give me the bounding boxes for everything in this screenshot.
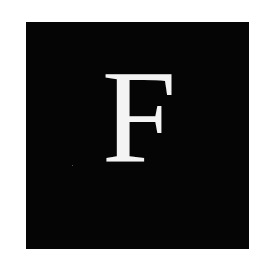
logo-tile: F	[26, 22, 249, 249]
logo-letter: F	[26, 50, 249, 184]
speck-artifact	[72, 165, 73, 166]
